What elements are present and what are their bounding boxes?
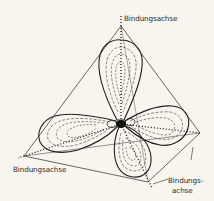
bottom-lobe [114, 126, 151, 177]
orbital-diagram: Bindungsachse Bindungsachse Bindungs- ac… [0, 0, 214, 201]
bond-axis-label-bottom-right-line2: achse [172, 187, 193, 194]
bond-axis-label-top: Bindungsachse [124, 15, 177, 22]
bond-axis-label-bottom-right-line1: Bindungs- [168, 177, 203, 184]
nucleus [116, 120, 126, 128]
bond-axis-label-left: Bindungsachse [13, 166, 66, 173]
edge-left-right-hidden [24, 133, 200, 156]
edge-bottom-right [148, 133, 200, 182]
edge-top-bottom-hidden [121, 26, 148, 182]
right-lobe [125, 106, 189, 145]
